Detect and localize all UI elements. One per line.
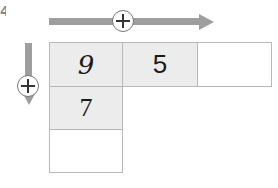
plus-circle-icon xyxy=(112,10,134,32)
grid-cell-r2c1: 7 xyxy=(49,86,123,130)
arrow-right-icon xyxy=(199,14,214,30)
answer-cell-r1c3[interactable] xyxy=(197,42,272,87)
grid-cell-r1c2: 5 xyxy=(122,42,198,87)
grid-cell-r1c1: 9 xyxy=(49,42,123,87)
answer-cell-r3c1[interactable] xyxy=(49,129,123,173)
question-number-fragment: 4 xyxy=(0,4,6,18)
plus-circle-icon xyxy=(17,75,39,97)
